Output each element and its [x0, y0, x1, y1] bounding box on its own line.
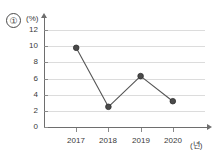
x-axis-tick-label: 2020	[153, 136, 193, 145]
x-axis-line	[44, 127, 209, 128]
y-axis-unit-label: (%)	[26, 14, 38, 23]
x-axis-tick	[108, 128, 109, 132]
y-axis-tick-label: 12	[22, 26, 38, 34]
y-axis-tick	[44, 127, 48, 128]
figure-item-number: ①	[6, 13, 21, 28]
gridline	[44, 30, 205, 31]
x-axis-tick	[76, 128, 77, 132]
gridline	[44, 79, 205, 80]
y-axis-tick-label: 0	[22, 123, 38, 131]
x-axis-tick	[173, 128, 174, 132]
x-axis-tick	[141, 128, 142, 132]
y-axis-tick	[44, 30, 48, 31]
y-axis-tick-label: 10	[22, 42, 38, 50]
y-axis-tick-label: 4	[22, 91, 38, 99]
gridline	[44, 95, 205, 96]
y-axis-tick	[44, 95, 48, 96]
gridline	[44, 46, 205, 47]
x-axis-arrow-icon	[207, 124, 212, 130]
y-axis-arrow-icon	[41, 13, 47, 18]
y-axis-tick	[44, 111, 48, 112]
y-axis-tick	[44, 79, 48, 80]
y-axis-tick	[44, 46, 48, 47]
y-axis-tick	[44, 62, 48, 63]
chart-figure: ① (%) (년) 024681012 2017201820192020	[0, 0, 219, 159]
y-axis-tick-label: 2	[22, 107, 38, 115]
gridline	[44, 62, 205, 63]
y-axis-tick-label: 8	[22, 58, 38, 66]
gridline	[44, 111, 205, 112]
y-axis-tick-label: 6	[22, 75, 38, 83]
